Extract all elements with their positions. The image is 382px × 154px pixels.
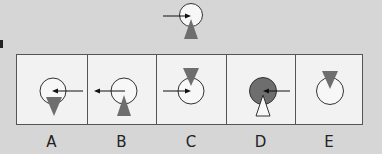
puzzle-stage: A B C D E — [0, 0, 382, 154]
arrow-left-icon — [94, 89, 100, 94]
options-box — [16, 54, 363, 125]
triangle-down-icon — [46, 97, 62, 116]
label-d: D — [226, 133, 295, 151]
question-figure-graphic — [160, 0, 210, 44]
label-c: C — [156, 133, 226, 151]
label-b: B — [87, 133, 156, 151]
option-a-graphic — [17, 55, 87, 125]
option-e[interactable] — [296, 55, 362, 124]
option-labels: A B C D E — [16, 133, 363, 151]
option-c[interactable] — [157, 55, 227, 124]
question-figure — [160, 0, 210, 44]
option-b[interactable] — [88, 55, 157, 124]
label-a: A — [16, 133, 87, 151]
option-a[interactable] — [17, 55, 88, 124]
option-c-graphic — [157, 55, 227, 125]
label-e: E — [295, 133, 363, 151]
option-d-graphic — [227, 55, 296, 125]
option-d[interactable] — [227, 55, 296, 124]
option-b-graphic — [88, 55, 157, 125]
question-marker — [0, 40, 3, 48]
option-e-graphic — [296, 55, 362, 125]
